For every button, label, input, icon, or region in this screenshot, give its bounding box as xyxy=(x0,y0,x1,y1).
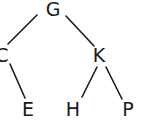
node-g: G xyxy=(46,0,61,19)
edge-g-c xyxy=(8,15,37,44)
node-e: E xyxy=(22,100,34,119)
node-h: H xyxy=(66,100,80,119)
edge-k-p xyxy=(106,67,122,99)
edge-k-h xyxy=(82,67,97,97)
node-c: C xyxy=(0,46,9,65)
node-k: K xyxy=(93,46,105,65)
edge-g-k xyxy=(66,16,94,46)
node-p: P xyxy=(122,100,133,119)
tree-diagram: G C K E H P xyxy=(0,0,141,127)
edge-c-e xyxy=(10,64,25,98)
